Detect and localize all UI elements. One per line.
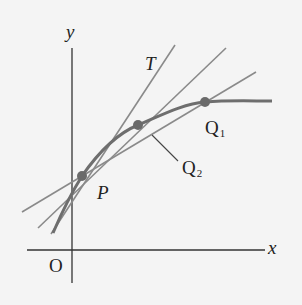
point-p [77,171,87,181]
q2-subscript: 2 [197,167,203,179]
function-curve [53,101,272,233]
y-axis-label: y [66,22,74,41]
point-q1 [200,97,210,107]
q1-letter: Q [205,117,219,138]
q2-leader-line [152,135,178,161]
point-p-label: P [97,183,109,202]
origin-label: O [49,256,63,275]
secant-tangent-diagram: y x O T P Q1 Q2 [0,0,302,305]
point-q2-label: Q2 [182,158,202,177]
tangent-label: T [145,54,156,73]
secant-line-pq1 [22,72,256,212]
point-q1-label: Q1 [205,118,225,137]
secant-line-pq2 [38,48,226,228]
x-axis-label: x [268,238,276,257]
q2-letter: Q [182,157,196,178]
diagram-canvas [0,0,302,305]
q1-subscript: 1 [220,127,226,139]
point-q2 [133,120,143,130]
